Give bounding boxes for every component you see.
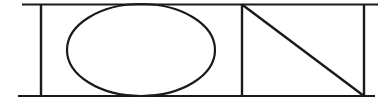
figure-canvas xyxy=(0,0,389,105)
geometric-figure-svg xyxy=(0,0,389,105)
figure-background xyxy=(0,0,389,105)
